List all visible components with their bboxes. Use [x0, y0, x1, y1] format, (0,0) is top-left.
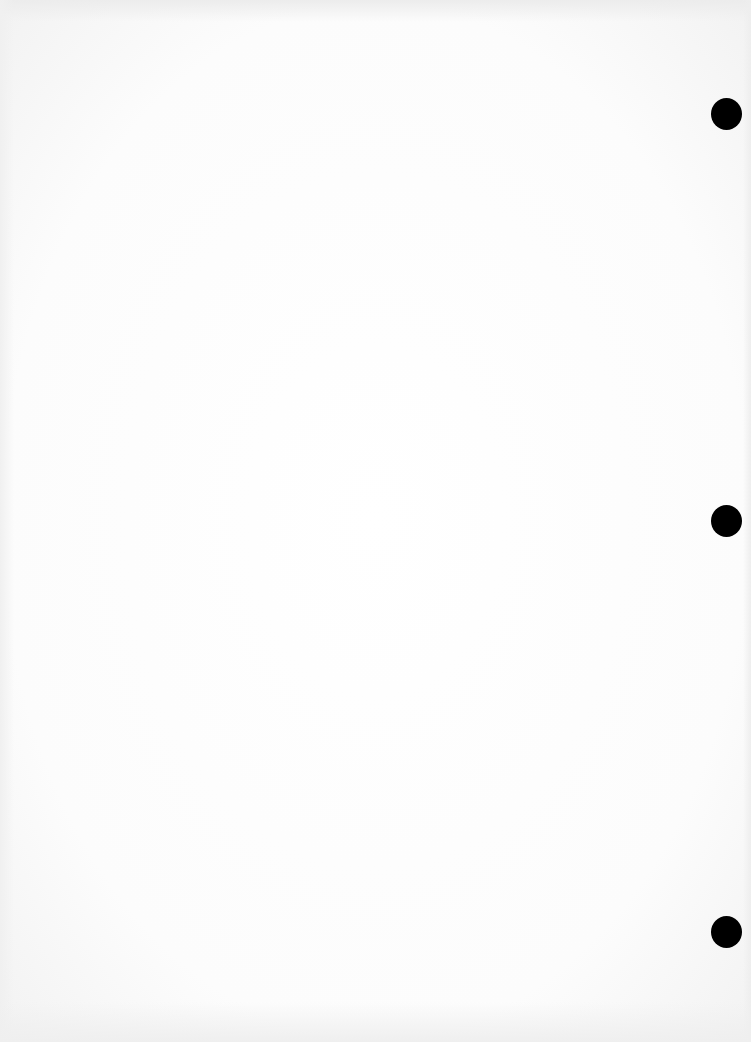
scan-shadow-left	[0, 0, 14, 1042]
scan-shadow-bottom	[0, 1002, 751, 1042]
hole-punch-middle	[711, 505, 742, 537]
scan-shadow-top	[0, 0, 751, 22]
hole-punch-bottom	[711, 916, 742, 948]
scan-shadow-right	[743, 0, 751, 1042]
hole-punch-top	[711, 98, 742, 130]
blank-scanned-page	[0, 0, 751, 1042]
